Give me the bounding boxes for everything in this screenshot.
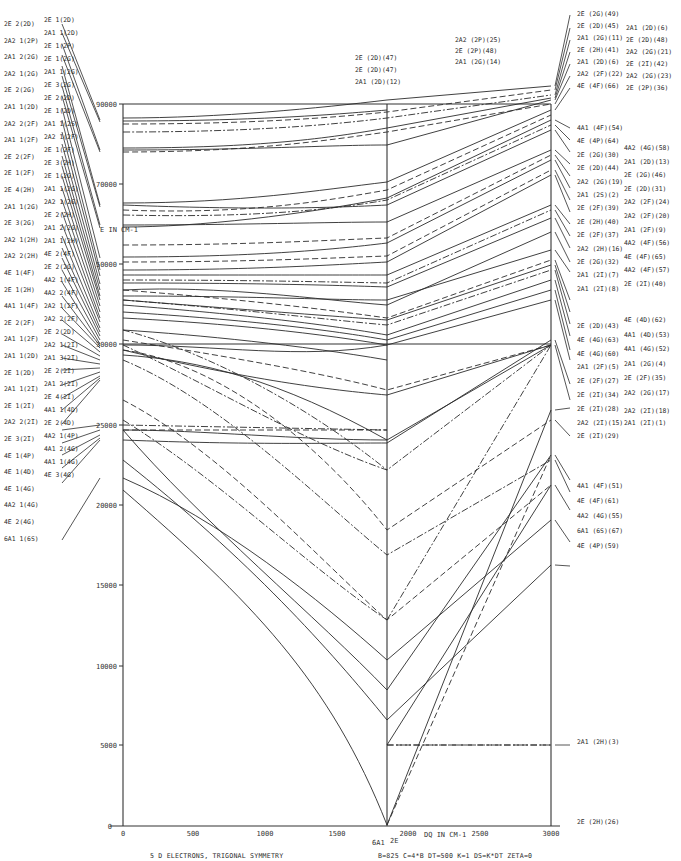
term-label: 2E (2F)(37) (577, 231, 619, 239)
term-leader-line (555, 485, 570, 510)
term-label: 2E 2(2F) (4, 319, 35, 327)
term-leader-line (555, 408, 570, 410)
term-leader-line (555, 520, 570, 542)
term-label: 2E 2(2G) (44, 263, 75, 271)
term-label: 2A2 (2G)(21) (626, 48, 672, 56)
term-label: 2A1 1(2D) (44, 29, 79, 37)
top-term-labels: 2E (2D)(47)2E (2D)(47)2A1 (2D)(12)2A2 (2… (355, 36, 501, 86)
energy-level-curve (123, 100, 551, 150)
energy-level-curve (123, 490, 387, 825)
energy-level-curve (123, 232, 551, 305)
y-tick-25000: 25000 (96, 422, 117, 430)
term-label: 2A1 1(2H) (44, 237, 79, 245)
energy-level-curve (123, 160, 551, 257)
term-label: 2E (2I)(34) (577, 391, 619, 399)
term-label: 2A1 (2S)(2) (577, 191, 619, 199)
term-leaders (62, 15, 570, 745)
term-label: 2E 2(2G) (4, 86, 35, 94)
x-tick-0: 0 (121, 830, 125, 838)
energy-level-curve (123, 425, 387, 430)
term-label: 2A2 1(2H) (4, 236, 39, 244)
term-leader-line (555, 155, 570, 176)
term-label: 4A1 1(4D) (44, 406, 79, 414)
term-label: 2A2 (2F)(20) (624, 212, 670, 220)
term-label: 4A2 (4G)(58) (624, 144, 670, 152)
energy-level-curve (123, 478, 387, 660)
term-label: 2E (2D)(47) (355, 66, 397, 74)
term-label: 2A2 (2G)(23) (626, 72, 672, 80)
term-label: 2E 3(2H) (44, 159, 75, 167)
term-label: 2A1 (2G)(11) (577, 34, 623, 42)
term-leader-line (555, 565, 570, 566)
term-label: 2E 1(2D) (44, 107, 75, 115)
y-tick-10000: 10000 (96, 663, 117, 671)
term-leader-line (555, 290, 570, 350)
term-label: 2E (2I)(42) (626, 60, 668, 68)
term-label: 2E 1(2P) (44, 42, 75, 50)
x-tick-2500: 2500 (472, 830, 489, 838)
energy-level-curve (123, 345, 551, 440)
crossover-label-left: 6A1 (372, 839, 385, 847)
term-label: 4E (4G)(63) (577, 336, 619, 344)
term-label: 4A1 (4F)(51) (577, 482, 623, 490)
term-label: 2E 2(2D) (44, 328, 75, 336)
energy-level-curve (123, 265, 551, 320)
term-label: 2A1 3(2I) (44, 354, 79, 362)
term-label: 2E (2F)(39) (577, 204, 619, 212)
term-label: 2A2 (2G)(17) (624, 389, 670, 397)
term-label: 6A1 (6S)(67) (577, 527, 623, 535)
term-label: 4A2 2(4F) (44, 289, 79, 297)
term-label: 2A1 (2F)(5) (577, 363, 619, 371)
energy-level-curve (123, 110, 551, 203)
term-label: 4A1 2(4G) (44, 445, 79, 453)
term-label: 2A1 (2D)(12) (355, 78, 401, 86)
term-label: 2E (2P)(48) (455, 47, 497, 55)
x-axis-label: DQ IN CM-1 (424, 831, 466, 839)
y-tick-90000: 90000 (96, 101, 117, 109)
term-label: 4A2 1(4P) (44, 432, 79, 440)
term-leader-line (555, 270, 570, 324)
term-label: 2E (2I)(28) (577, 405, 619, 413)
term-label: 2A1 (2D)(13) (624, 158, 670, 166)
term-label: 2E 1(2G) (44, 55, 75, 63)
term-label: 2E 2(2H) (44, 211, 75, 219)
term-label: 2A2 (2I)(15) (577, 419, 623, 427)
term-label: 4A1 (4F)(54) (577, 124, 623, 132)
term-label: 2A2 1(2F) (44, 133, 79, 141)
term-label: 2E 1(2G) (44, 172, 75, 180)
levels-solid (123, 86, 551, 825)
term-leader-line (555, 250, 570, 272)
term-label: 2A2 (2H)(16) (577, 245, 623, 253)
left-term-labels-inner: 2E 1(2D)2A1 1(2D)2E 1(2P)2E 1(2G)2A1 1(2… (44, 16, 79, 479)
term-label: 2A1 (2F)(9) (624, 226, 666, 234)
term-label: 4A1 1(4G) (44, 458, 79, 466)
term-label: 2E 1(2I) (4, 402, 35, 410)
y-tick-0: 0 (108, 823, 112, 831)
term-label: 2A2 (2G)(19) (577, 178, 623, 186)
term-label: 4E (4G)(60) (577, 350, 619, 358)
term-label: 2A2 1(2G) (4, 70, 39, 78)
term-label: 6A1 1(6S) (4, 535, 39, 543)
term-label: 2A1 1(2G) (44, 68, 79, 76)
term-label: 2E 2(2D) (4, 20, 35, 28)
term-label: 2A1 1(2D) (4, 103, 39, 111)
y-axis: 90000 70000 50000 30000 25000 20000 1500… (96, 101, 138, 831)
energy-level-curve (123, 350, 551, 530)
x-tick-3000: 3000 (543, 830, 560, 838)
energy-level-curve (123, 345, 551, 470)
term-leader-line (62, 478, 100, 540)
term-label: 2E 2(4D) (44, 419, 75, 427)
x-tick-1000: 1000 (257, 830, 274, 838)
term-label: 2E (2D)(31) (624, 185, 666, 193)
term-label: 2A1 1(2D) (4, 352, 39, 360)
term-label: 2A1 2(2I) (44, 380, 79, 388)
term-label: 4E (4P)(59) (577, 542, 619, 550)
term-label: 4E 1(4D) (4, 468, 35, 476)
term-label: 2E (2H)(40) (577, 218, 619, 226)
term-label: 2A2 (2I)(18) (624, 407, 670, 415)
energy-level-curve (387, 345, 551, 620)
term-label: 4E 1(4G) (4, 485, 35, 493)
term-label: 4E 2(4F) (44, 250, 75, 258)
term-label: 2A1 (2I)(1) (624, 419, 666, 427)
term-label: 4A1 1(4F) (4, 302, 39, 310)
